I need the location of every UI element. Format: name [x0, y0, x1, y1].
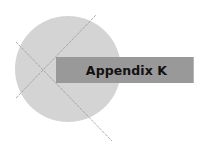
appendix-title: Appendix K	[82, 63, 167, 78]
appendix-title-banner: Appendix K	[56, 57, 194, 83]
